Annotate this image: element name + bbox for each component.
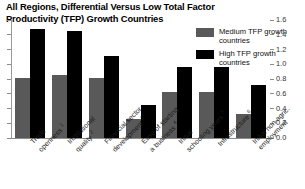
y-tick-label: 0.8: [276, 74, 286, 83]
y-tick-label: 1.4: [276, 30, 286, 39]
y-axis-left-ticks: [0, 20, 11, 138]
bar-group: [12, 20, 49, 138]
tick-mark: [270, 34, 274, 35]
y-tick-label: 1.6: [276, 15, 286, 24]
tick-mark: [270, 49, 274, 50]
bar: [30, 29, 45, 138]
tick-mark: [270, 108, 274, 109]
tick-mark: [270, 64, 274, 65]
tick-mark: [270, 20, 274, 21]
x-axis-labels: Tradeopenness 1Institutionalquality 2Fin…: [11, 140, 269, 189]
y-tick-label: 1.0: [276, 59, 286, 68]
y-tick-label: 0.6: [276, 89, 286, 98]
bar: [15, 78, 30, 138]
tick-mark: [270, 79, 274, 80]
tick-mark: [270, 93, 274, 94]
chart-container: All Regions, Differential Versus Low Tot…: [0, 0, 305, 189]
y-tick-label: 1.2: [276, 45, 286, 54]
